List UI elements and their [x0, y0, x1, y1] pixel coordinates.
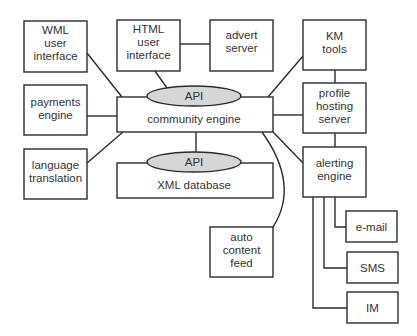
node-label: server [319, 113, 351, 125]
node-label: content [223, 244, 262, 256]
node-sms: SMS [347, 252, 398, 283]
node-label: tools [322, 43, 347, 55]
node-label: feed [230, 257, 252, 269]
node-label: payments [31, 96, 81, 108]
node-xml-database: API XML database [117, 152, 273, 198]
node-html-user-interface: HTML user interface [117, 20, 180, 71]
node-label: language [32, 159, 79, 171]
node-alerting-engine: alerting engine [303, 147, 366, 197]
node-label: SMS [360, 262, 385, 274]
node-im: IM [347, 292, 398, 323]
edge-alerting-im [313, 197, 347, 308]
edge-language-community [87, 132, 123, 163]
node-label: XML database [157, 179, 231, 191]
node-label: translation [29, 172, 82, 184]
node-advert-server: advert server [210, 20, 273, 71]
node-label: auto [230, 231, 252, 243]
node-label: interface [126, 49, 170, 61]
node-label: server [226, 42, 258, 54]
node-wml-user-interface: WML user interface [24, 21, 87, 72]
node-label: WML [42, 24, 69, 36]
node-payments-engine: payments engine [24, 85, 87, 135]
api-label: API [185, 90, 204, 102]
node-auto-content-feed: auto content feed [210, 227, 273, 277]
edge-html-community [155, 71, 167, 88]
node-label: hosting [316, 100, 353, 112]
node-label: profile [319, 87, 350, 99]
node-label: user [44, 37, 67, 49]
node-label: engine [317, 170, 352, 182]
node-label: alerting [316, 157, 354, 169]
node-community-engine: API community engine [117, 86, 273, 132]
node-label: IM [366, 302, 379, 314]
node-label: user [137, 36, 160, 48]
node-profile-hosting-server: profile hosting server [303, 83, 366, 133]
node-label: interface [33, 50, 77, 62]
architecture-diagram: WML user interface HTML user interface a… [0, 0, 417, 336]
node-label: e-mail [356, 221, 387, 233]
node-email: e-mail [346, 211, 397, 242]
node-km-tools: KM tools [303, 20, 366, 70]
api-label: API [185, 156, 204, 168]
edge-alerting-email [335, 197, 346, 227]
node-language-translation: language translation [24, 149, 87, 199]
node-label: KM [326, 30, 343, 42]
node-label: engine [38, 109, 73, 121]
node-label: HTML [133, 23, 165, 35]
node-label: advert [226, 29, 259, 41]
node-label: community engine [147, 113, 240, 125]
